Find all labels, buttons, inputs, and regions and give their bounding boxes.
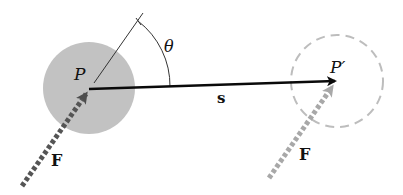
- label-force-end: F: [299, 145, 311, 164]
- work-diagram: P P′ s F F θ: [0, 0, 403, 195]
- force-arrow-end: [269, 87, 332, 178]
- label-force-start: F: [51, 151, 63, 170]
- label-angle: θ: [164, 37, 174, 56]
- label-point-end: P′: [329, 57, 345, 77]
- label-point-start: P: [73, 64, 86, 84]
- label-displacement: s: [217, 89, 225, 107]
